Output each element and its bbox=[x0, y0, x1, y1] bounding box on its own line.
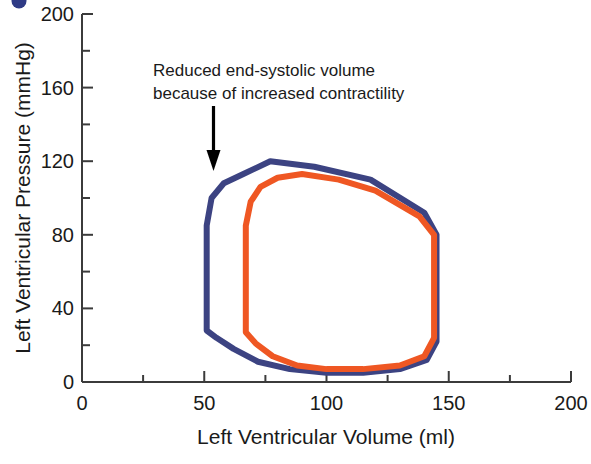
y-tick-label: 120 bbox=[41, 150, 74, 172]
annotation-line-2: because of increased contractility bbox=[153, 84, 405, 103]
y-tick-label: 0 bbox=[63, 371, 74, 393]
x-tick-label: 150 bbox=[432, 392, 465, 414]
x-tick-label: 0 bbox=[76, 392, 87, 414]
annotation-reduced-esv: Reduced end-systolic volume because of i… bbox=[153, 61, 405, 171]
y-tick-label: 40 bbox=[52, 297, 74, 319]
x-tick-label: 50 bbox=[193, 392, 215, 414]
y-axis-ticks bbox=[82, 14, 93, 382]
pv-loop-increased-contractility bbox=[207, 161, 437, 373]
pv-loop-chart: 0 40 80 120 160 200 0 50 100 150 200 Lef… bbox=[0, 0, 591, 464]
y-tick-label: 200 bbox=[41, 3, 74, 25]
annotation-line-1: Reduced end-systolic volume bbox=[153, 61, 375, 80]
x-axis-title: Left Ventricular Volume (ml) bbox=[197, 425, 455, 448]
panel-marker-icon bbox=[12, 0, 27, 9]
x-tick-label: 100 bbox=[310, 392, 343, 414]
y-axis-title: Left Ventricular Pressure (mmHg) bbox=[11, 42, 34, 354]
y-axis-tick-labels: 0 40 80 120 160 200 bbox=[41, 3, 74, 393]
pv-loops bbox=[207, 161, 437, 373]
y-tick-label: 160 bbox=[41, 77, 74, 99]
annotation-arrow-icon bbox=[207, 106, 221, 171]
y-tick-label: 80 bbox=[52, 224, 74, 246]
x-tick-label: 200 bbox=[554, 392, 587, 414]
x-axis-tick-labels: 0 50 100 150 200 bbox=[76, 392, 587, 414]
